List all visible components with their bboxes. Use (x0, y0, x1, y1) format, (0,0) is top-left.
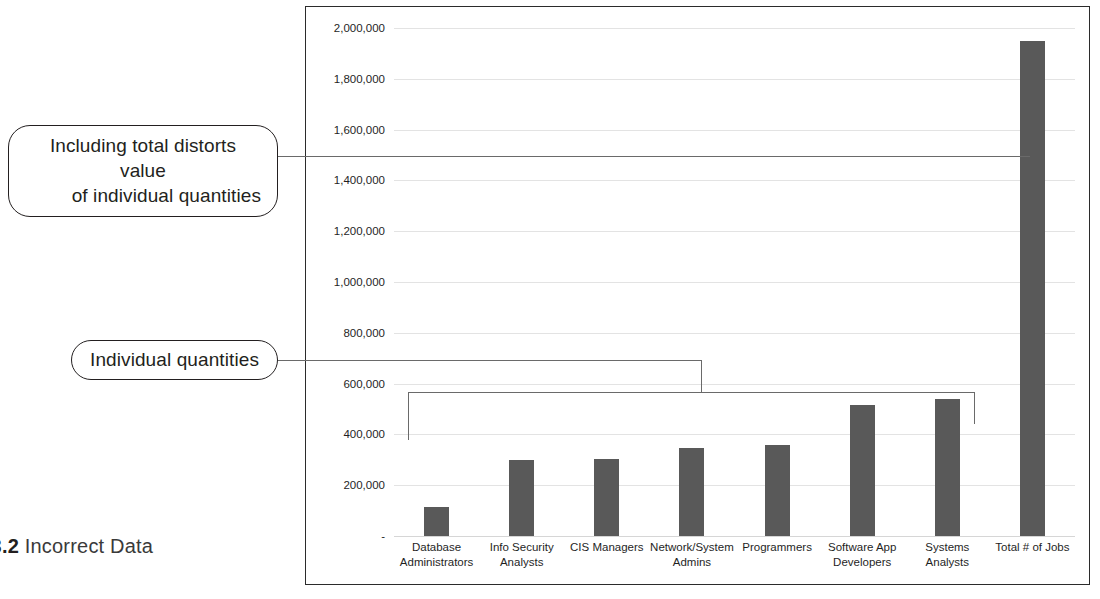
y-axis-tick-label: 1,400,000 (334, 174, 385, 186)
callout-total-distorts: Including total distorts value of indivi… (8, 125, 278, 217)
gridline (394, 536, 1075, 537)
y-axis-tick-label: 1,800,000 (334, 73, 385, 85)
x-axis-label-line: Developers (833, 556, 891, 568)
x-axis-label-line: Total # of Jobs (995, 541, 1069, 553)
y-axis-tick-label: 1,200,000 (334, 225, 385, 237)
callout-distort-line1: Including total distorts value (25, 133, 261, 183)
gridline (394, 231, 1075, 232)
leader-line-total (278, 156, 1030, 157)
bar (509, 460, 534, 536)
bar (424, 507, 449, 536)
gridline (394, 384, 1075, 385)
x-axis-label-line: Database (412, 541, 461, 553)
gridline (394, 333, 1075, 334)
plot-area: 2,000,0001,800,0001,600,0001,400,0001,20… (394, 28, 1075, 536)
gridline (394, 180, 1075, 181)
figure-title: Incorrect Data (25, 535, 153, 557)
y-axis-tick-label: 1,000,000 (334, 276, 385, 288)
x-axis-label-line: Network/System (650, 541, 734, 553)
gridline (394, 130, 1075, 131)
x-axis-label-line: Programmers (742, 541, 812, 553)
callout-distort-line2: of individual quantities (25, 183, 261, 208)
leader-line-individual-vertical (701, 360, 702, 393)
x-axis-label-line: Systems (925, 541, 969, 553)
gridline (394, 434, 1075, 435)
x-axis-label-line: Analysts (926, 556, 969, 568)
gridline (394, 28, 1075, 29)
gridline (394, 485, 1075, 486)
leader-line-individual-horizontal (278, 360, 702, 361)
x-axis-category-label: Total # of Jobs (980, 540, 1084, 555)
bar (594, 459, 619, 536)
bracket-end-left (408, 392, 409, 440)
y-axis-tick-label: 400,000 (343, 428, 385, 440)
bar (1020, 41, 1045, 536)
bar (679, 448, 704, 536)
x-axis-label-line: CIS Managers (570, 541, 644, 553)
y-axis-tick-label: 800,000 (343, 327, 385, 339)
x-axis-label-line: Info Security (490, 541, 554, 553)
chart-frame: 2,000,0001,800,0001,600,0001,400,0001,20… (305, 6, 1090, 585)
callout-individual-quantities: Individual quantities (71, 340, 278, 380)
figure-page: URE 3.2 Incorrect Data rce Including tot… (0, 0, 1100, 599)
bar (850, 405, 875, 536)
bracket-end-right (974, 392, 975, 424)
y-axis-tick-label: 200,000 (343, 479, 385, 491)
x-axis-label-line: Admins (673, 556, 711, 568)
gridline (394, 79, 1075, 80)
x-axis-label-line: Administrators (400, 556, 474, 568)
bar (935, 399, 960, 536)
bar (765, 445, 790, 536)
bracket-span-top (408, 392, 975, 393)
y-axis-tick-label: 600,000 (343, 378, 385, 390)
x-axis-label-line: Analysts (500, 556, 543, 568)
figure-number: URE 3.2 (0, 535, 19, 557)
figure-caption: URE 3.2 Incorrect Data rce (0, 532, 272, 588)
y-axis-tick-label: 1,600,000 (334, 124, 385, 136)
x-axis-label-line: Software App (828, 541, 896, 553)
gridline (394, 282, 1075, 283)
y-axis-tick-label: 2,000,000 (334, 22, 385, 34)
